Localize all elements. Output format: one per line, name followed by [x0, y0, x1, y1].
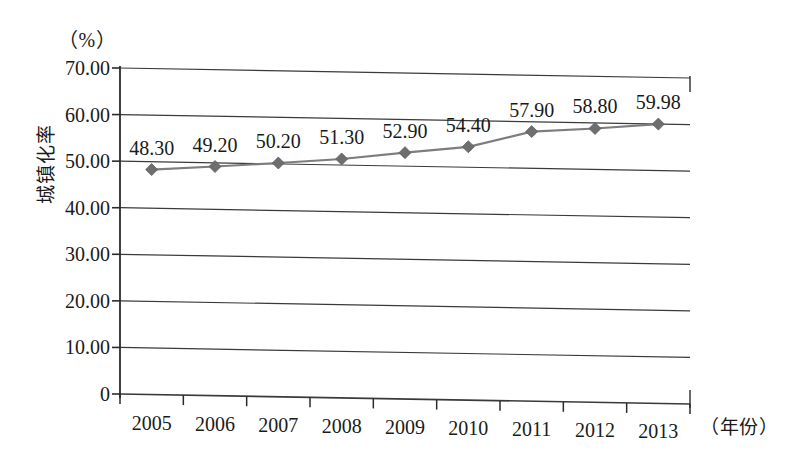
urbanization-rate-line-chart: （%） 城镇化率 010.0020.0030.0040.0050.0060.00…: [0, 0, 789, 470]
x-tick-label: 2011: [512, 419, 551, 439]
x-tick-label: 2010: [448, 418, 488, 438]
x-tick-label: 2012: [575, 420, 615, 440]
x-axis-title: （年份）: [700, 412, 778, 439]
x-tick-label: 2005: [132, 413, 172, 433]
x-tick-label: 2008: [322, 416, 362, 436]
x-tick-label: 2006: [195, 414, 235, 434]
x-axis-tick-labels: 200520062007200820092010201120122013: [0, 0, 789, 470]
x-tick-label: 2013: [638, 421, 678, 441]
x-tick-label: 2009: [385, 417, 425, 437]
x-tick-label: 2007: [258, 415, 298, 435]
